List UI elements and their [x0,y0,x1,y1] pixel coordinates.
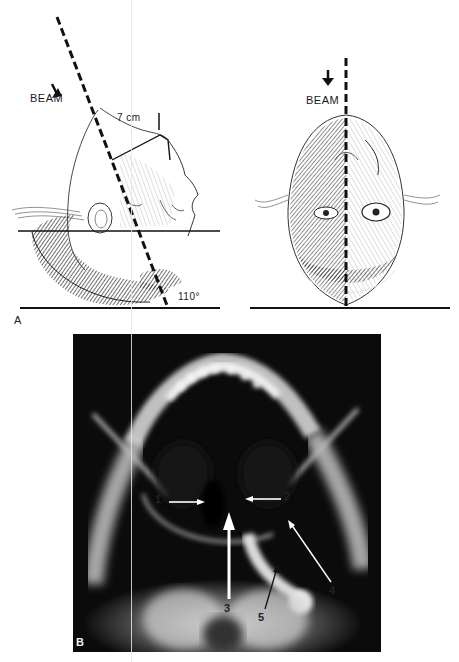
annotation-label-5: 5 [258,611,264,623]
annotation-arrow-4 [291,524,331,582]
distance-label: 7 cm [117,112,141,123]
beam-label-lateral: BEAM [30,92,63,104]
panel-letter-a: A [14,314,21,326]
angle-label: 110° [178,291,200,302]
lateral-head-illustration [0,0,230,315]
panel-letter-b: B [76,636,84,648]
annotation-label-3: 3 [224,602,230,614]
panel-b-xray-image: 1 2 3 4 5 B [73,334,381,652]
annotation-label-4: 4 [329,584,335,596]
frontal-head-illustration [230,0,459,315]
arrow-down-icon [322,70,334,86]
annotation-label-1: 1 [155,493,161,505]
annotation-label-2: 2 [284,490,290,502]
panel-a-frontal-view: BEAM [230,0,459,315]
panel-a-lateral-view: BEAM 7 cm 110° [0,0,230,315]
beam-label-frontal: BEAM [306,94,339,106]
scan-artifact-line [131,0,132,662]
